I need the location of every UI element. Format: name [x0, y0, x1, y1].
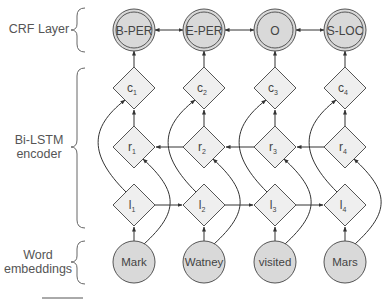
word-label: Mars [332, 256, 358, 268]
backward-r-node: r2 [183, 126, 225, 168]
crf-brace [71, 8, 85, 52]
crf-tag-label: S-LOC [327, 24, 364, 38]
word-embedding-node: visited [254, 241, 296, 283]
word-embedding-node: Mark [113, 241, 155, 283]
word-embeddings-label: Word embeddings [4, 248, 72, 276]
crf-tag-label: O [270, 24, 279, 38]
word-label: Mark [121, 256, 147, 268]
combined-c-node: c2 [183, 67, 225, 109]
forward-l-node: l1 [113, 184, 155, 226]
crf-tag-node: E-PER [183, 9, 225, 51]
word-label: Watney [185, 256, 224, 268]
crf-tag-node: S-LOC [324, 9, 366, 51]
word-label-line1: Word [4, 248, 72, 262]
backward-r-node: r4 [324, 126, 366, 168]
bilstm-encoder-label: Bi-LSTM encoder [8, 133, 70, 161]
crf-tag-node: B-PER [113, 9, 155, 51]
crf-tag-label: E-PER [186, 24, 223, 38]
combined-c-node: c1 [113, 67, 155, 109]
word-brace [71, 241, 85, 284]
bilstm-label-line2: encoder [8, 147, 70, 161]
forward-l-node: l4 [324, 184, 366, 226]
crf-tag-label: B-PER [116, 24, 153, 38]
bilstm-brace [71, 68, 85, 228]
word-label-line2: embeddings [4, 262, 72, 276]
word-embedding-node: Mars [324, 241, 366, 283]
combined-c-node: c4 [324, 67, 366, 109]
word-embedding-node: Watney [183, 241, 225, 283]
crf-tag-node: O [254, 9, 296, 51]
backward-r-node: r3 [254, 126, 296, 168]
bilstm-label-line1: Bi-LSTM [8, 133, 70, 147]
crf-layer-label: CRF Layer [8, 22, 70, 36]
forward-l-node: l2 [183, 184, 225, 226]
word-label: visited [259, 256, 292, 268]
forward-l-node: l3 [254, 184, 296, 226]
combined-c-node: c3 [254, 67, 296, 109]
backward-r-node: r1 [113, 126, 155, 168]
